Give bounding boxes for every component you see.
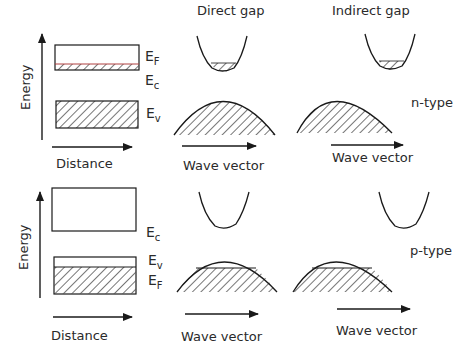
- filled-electron-region: [56, 64, 139, 70]
- column-title-direct-gap: Direct gap: [197, 3, 265, 18]
- conduction-band-parabola: [379, 192, 429, 228]
- conduction-band-parabola: [199, 192, 249, 228]
- filled-valence-region: [55, 267, 136, 294]
- n-type-real-space: Energy EF Ec Ev Distance: [18, 34, 161, 171]
- wave-vector-label: Wave vector: [336, 323, 418, 338]
- wave-vector-label: Wave vector: [332, 150, 414, 165]
- energy-axis-label: Energy: [18, 64, 33, 110]
- distance-axis-label: Distance: [56, 156, 113, 171]
- level-label-ev: Ev: [148, 252, 163, 271]
- row-label-p-type: p-type: [410, 243, 452, 258]
- p-type-real-space: Energy Ec Ev EF Distance: [16, 188, 163, 343]
- wave-vector-label: Wave vector: [181, 329, 263, 344]
- level-label-ec: Ec: [145, 72, 159, 91]
- row-label-n-type: n-type: [411, 95, 453, 110]
- conduction-band-box: [52, 188, 136, 231]
- valence-band-filled: [293, 268, 392, 292]
- p-type-direct-gap: Wave vector: [177, 192, 277, 344]
- valence-band-box: [56, 101, 138, 128]
- level-label-ef: EF: [148, 272, 163, 291]
- filled-electron-pocket: [379, 61, 404, 70]
- n-type-direct-gap: Wave vector: [174, 36, 275, 173]
- band-diagram: Direct gap Indirect gap Energy EF Ec Ev …: [0, 0, 474, 356]
- distance-axis-label: Distance: [51, 328, 108, 343]
- level-label-ec: Ec: [146, 224, 160, 243]
- valence-band-filled: [177, 268, 277, 292]
- n-type-indirect-gap: Wave vector: [297, 34, 415, 165]
- filled-electron-pocket: [211, 63, 236, 72]
- energy-axis-label: Energy: [16, 224, 31, 270]
- level-label-ev: Ev: [146, 105, 161, 124]
- level-label-ef: EF: [145, 48, 160, 67]
- valence-band-filled: [297, 102, 392, 134]
- wave-vector-label: Wave vector: [183, 158, 265, 173]
- p-type-indirect-gap: Wave vector: [293, 192, 429, 338]
- column-title-indirect-gap: Indirect gap: [332, 3, 410, 18]
